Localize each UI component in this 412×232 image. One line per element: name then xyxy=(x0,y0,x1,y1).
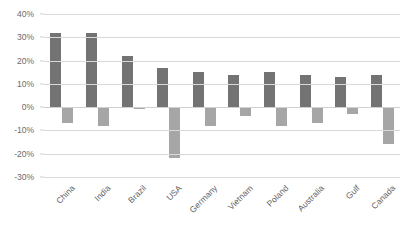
bar-canada-negative xyxy=(383,107,394,144)
y-axis-tick-label: 10% xyxy=(17,79,34,89)
gridline-40 xyxy=(44,14,400,15)
y-axis-tick-label: -20% xyxy=(14,149,34,159)
gridline-30 xyxy=(44,37,400,38)
bar-brazil-positive xyxy=(122,56,133,107)
bar-india-positive xyxy=(86,33,97,108)
bar-usa-negative xyxy=(169,107,180,158)
bar-china-negative xyxy=(62,107,73,123)
y-axis-tick-label: 0% xyxy=(22,102,34,112)
bar-poland-positive xyxy=(264,72,275,107)
gridline-0 xyxy=(44,107,400,108)
bar-vietnam-negative xyxy=(240,107,251,116)
bar-series-container xyxy=(44,14,400,177)
bar-germany-negative xyxy=(205,107,216,126)
bar-chart: 40%30%20%10%0%-10%-20%-30% ChinaIndiaBra… xyxy=(0,0,412,232)
x-axis-category-labels: ChinaIndiaBrazilUSAGermanyVietnamPolandA… xyxy=(44,179,400,232)
y-axis-tick-label: 40% xyxy=(17,9,34,19)
gridline-minus30 xyxy=(44,177,400,178)
y-axis-tick-label: -30% xyxy=(14,172,34,182)
gridline-20 xyxy=(44,61,400,62)
bar-gulf-negative xyxy=(347,107,358,114)
y-axis-tick-label: -10% xyxy=(14,125,34,135)
gridline-10 xyxy=(44,84,400,85)
bar-vietnam-positive xyxy=(228,75,239,108)
bar-poland-negative xyxy=(276,107,287,126)
bar-india-negative xyxy=(98,107,109,126)
bar-germany-positive xyxy=(193,72,204,107)
bar-australia-positive xyxy=(300,75,311,108)
bar-gulf-positive xyxy=(335,77,346,107)
bar-usa-positive xyxy=(157,68,168,108)
bar-australia-negative xyxy=(312,107,323,123)
gridline-minus20 xyxy=(44,154,400,155)
bar-china-positive xyxy=(50,33,61,108)
y-axis-tick-label: 20% xyxy=(17,56,34,66)
plot-area xyxy=(44,14,400,177)
y-axis-tick-label: 30% xyxy=(17,32,34,42)
gridline-minus10 xyxy=(44,130,400,131)
x-axis-label-china: China xyxy=(52,183,77,208)
y-axis: 40%30%20%10%0%-10%-20%-30% xyxy=(0,0,40,232)
bar-canada-positive xyxy=(371,75,382,108)
